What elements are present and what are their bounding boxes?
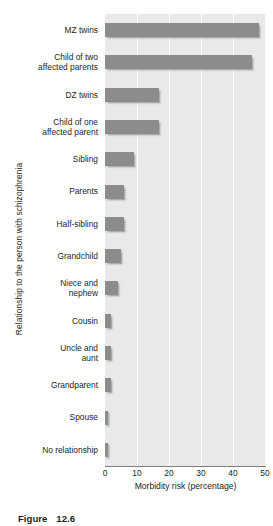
- x-axis-line: [105, 466, 266, 467]
- gridline-40: [233, 14, 234, 466]
- category-label-line: affected parent: [2, 127, 98, 137]
- category-label-line: Grandchild: [2, 251, 98, 261]
- category-label-line: Cousin: [2, 316, 98, 326]
- category-label: Cousin: [2, 316, 98, 326]
- category-label: Half-sibling: [2, 219, 98, 229]
- figure-container: Relationship to the person with schizoph…: [0, 0, 273, 526]
- x-tick-label-group: 01020304050: [105, 468, 266, 480]
- category-label-line: Child of two: [2, 52, 98, 62]
- bar: [105, 23, 259, 37]
- bar: [105, 88, 159, 102]
- category-label-line: Uncle and: [2, 343, 98, 353]
- figure-caption-number: 12.6: [56, 513, 75, 524]
- category-label: Child of oneaffected parent: [2, 117, 98, 137]
- x-axis-title: Morbidity risk (percentage): [105, 481, 266, 491]
- category-label: Spouse: [2, 412, 98, 422]
- category-label: Child of twoaffected parents: [2, 52, 98, 72]
- category-label: Uncle andaunt: [2, 343, 98, 363]
- category-label-line: DZ twins: [2, 90, 98, 100]
- bar: [105, 55, 252, 69]
- category-label: Parents: [2, 186, 98, 196]
- bar: [105, 411, 108, 425]
- category-label-line: No relationship: [2, 445, 98, 455]
- category-label-line: MZ twins: [2, 25, 98, 35]
- category-label-line: Grandparent: [2, 380, 98, 390]
- category-label: Sibling: [2, 154, 98, 164]
- category-label-line: aunt: [2, 353, 98, 363]
- category-label: Grandchild: [2, 251, 98, 261]
- figure-caption-label: Figure: [18, 513, 47, 524]
- gridline-50: [265, 14, 266, 466]
- bar: [105, 346, 111, 360]
- category-label: DZ twins: [2, 90, 98, 100]
- bar: [105, 281, 118, 295]
- category-label-line: Child of one: [2, 117, 98, 127]
- bar: [105, 217, 124, 231]
- gridline-10: [137, 14, 138, 466]
- category-label: Grandparent: [2, 380, 98, 390]
- x-tick-label: 30: [189, 468, 213, 478]
- bar: [105, 152, 134, 166]
- category-label-line: Sibling: [2, 154, 98, 164]
- bar: [105, 314, 111, 328]
- category-label: MZ twins: [2, 25, 98, 35]
- category-label-line: Spouse: [2, 412, 98, 422]
- category-label: Niece andnephew: [2, 278, 98, 298]
- gridline-20: [169, 14, 170, 466]
- category-label-line: Half-sibling: [2, 219, 98, 229]
- category-label-line: affected parents: [2, 62, 98, 72]
- bar: [105, 249, 121, 263]
- x-tick-label: 50: [253, 468, 273, 478]
- x-tick-label: 20: [157, 468, 181, 478]
- bar: [105, 443, 108, 457]
- bar: [105, 378, 111, 392]
- category-label: No relationship: [2, 445, 98, 455]
- figure-caption: Figure12.6: [18, 513, 75, 524]
- plot-area: [105, 14, 265, 466]
- x-tick-label: 0: [93, 468, 117, 478]
- category-label-list: MZ twinsChild of twoaffected parentsDZ t…: [2, 14, 101, 466]
- bar: [105, 120, 159, 134]
- x-tick-label: 10: [125, 468, 149, 478]
- category-label-line: nephew: [2, 288, 98, 298]
- bar: [105, 185, 124, 199]
- gridline-30: [201, 14, 202, 466]
- category-label-line: Niece and: [2, 278, 98, 288]
- category-label-line: Parents: [2, 186, 98, 196]
- x-tick-label: 40: [221, 468, 245, 478]
